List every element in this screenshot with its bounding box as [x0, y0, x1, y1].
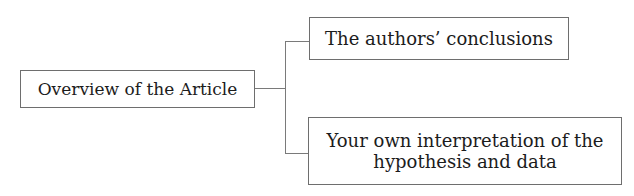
node-label-line-2: hypothesis and data: [373, 151, 556, 172]
node-own-interpretation: Your own interpretation of the hypothesi…: [308, 117, 622, 185]
node-label: The authors’ conclusions: [325, 28, 553, 49]
connector-vertical: [285, 41, 286, 154]
connector-bottom-branch: [285, 153, 309, 154]
node-label: Overview of the Article: [38, 79, 238, 99]
connector-top-branch: [285, 41, 309, 42]
node-overview-of-the-article: Overview of the Article: [20, 70, 255, 108]
node-authors-conclusions: The authors’ conclusions: [309, 17, 569, 60]
connector-root: [255, 88, 286, 89]
node-label-line-1: Your own interpretation of the: [326, 130, 603, 151]
